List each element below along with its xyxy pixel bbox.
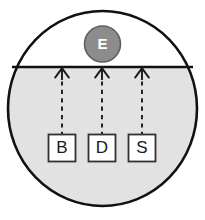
diagram-canvas: B D S E [0,0,205,220]
entity-node-e[interactable]: E [85,26,121,62]
node-box-b-label: B [56,138,67,157]
node-box-s[interactable]: S [129,135,156,162]
node-box-s-label: S [136,138,147,157]
entity-node-e-label: E [97,35,107,52]
node-box-d[interactable]: D [89,135,116,162]
node-box-b[interactable]: B [49,135,76,162]
node-box-d-label: D [96,138,108,157]
diagram-svg: B D S E [0,0,205,220]
